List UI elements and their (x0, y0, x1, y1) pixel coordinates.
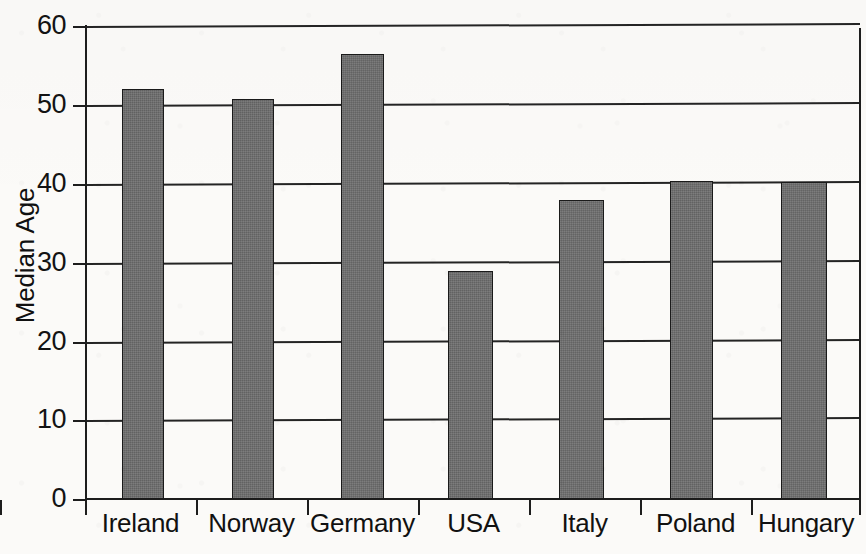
gridline-60 (86, 23, 860, 28)
x-category-label-norway: Norway (196, 508, 307, 539)
bar-hungary (781, 182, 827, 499)
bar-poland (670, 181, 713, 499)
bar-norway (232, 99, 274, 499)
y-tick-label-60: 60 (10, 10, 66, 41)
bar-chart-figure: Median Age 60 50 40 30 20 10 0 Ireland N… (0, 0, 866, 554)
y-tick-label-30: 30 (10, 247, 66, 278)
x-category-label-ireland: Ireland (85, 508, 196, 539)
x-category-label-germany: Germany (307, 508, 418, 539)
y-tick-label-20: 20 (10, 326, 66, 357)
x-category-label-poland: Poland (640, 508, 751, 539)
x-category-label-hungary: Hungary (748, 508, 864, 539)
y-tick-label-10: 10 (10, 404, 66, 435)
bar-italy (559, 200, 604, 499)
gridline-50 (86, 102, 860, 107)
bar-usa (448, 271, 493, 499)
bar-germany (341, 54, 384, 499)
x-category-label-italy: Italy (529, 508, 640, 539)
bar-ireland (122, 89, 164, 499)
y-tick-label-0: 0 (10, 483, 66, 514)
x-category-label-usa: USA (418, 508, 529, 539)
x-tick-mark-2 (0, 500, 2, 515)
y-tick-label-50: 50 (10, 89, 66, 120)
y-tick-label-40: 40 (10, 168, 66, 199)
plot-right-border (859, 28, 861, 499)
y-axis-line (85, 25, 87, 501)
gridline-30 (86, 260, 860, 265)
gridline-40 (86, 181, 860, 186)
